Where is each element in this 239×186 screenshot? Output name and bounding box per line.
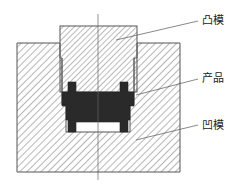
- label-die: 凹模: [202, 120, 224, 132]
- label-product: 产品: [202, 73, 224, 85]
- mold-diagram: [0, 0, 239, 186]
- label-punch: 凸模: [202, 15, 224, 27]
